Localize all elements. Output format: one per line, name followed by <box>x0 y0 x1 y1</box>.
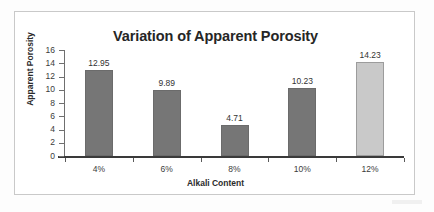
bar-value-label: 4.71 <box>208 113 262 123</box>
scan-artifact <box>392 200 422 204</box>
y-axis-tick-label: 16 <box>31 46 55 55</box>
y-axis-title: Apparent Porosity <box>25 29 35 109</box>
bar <box>85 70 113 156</box>
x-axis-line <box>58 156 404 158</box>
x-axis-tick <box>404 158 405 162</box>
chart-frame: Variation of Apparent Porosity Apparent … <box>14 11 415 195</box>
bar-value-label: 14.23 <box>343 50 397 60</box>
y-axis-tick <box>59 90 64 91</box>
x-axis-tick-label: 4% <box>69 164 129 174</box>
bar <box>288 88 316 156</box>
y-axis-tick-label: 4 <box>31 125 55 134</box>
x-axis-tick-label: 12% <box>340 164 400 174</box>
y-axis-tick <box>59 77 64 78</box>
bar-value-label: 12.95 <box>72 58 126 68</box>
x-axis-tick <box>201 158 202 162</box>
y-axis-tick <box>59 103 64 104</box>
scanned-page-background: Variation of Apparent Porosity Apparent … <box>0 0 434 212</box>
bar <box>356 62 384 156</box>
y-axis-tick <box>59 156 64 157</box>
y-axis-tick-label: 12 <box>31 72 55 81</box>
y-axis-tick-label: 8 <box>31 99 55 108</box>
bar <box>153 90 181 156</box>
chart-title: Variation of Apparent Porosity <box>15 28 416 44</box>
y-axis-tick-label: 10 <box>31 85 55 94</box>
y-axis-tick <box>59 116 64 117</box>
bar-value-label: 9.89 <box>140 78 194 88</box>
y-axis-tick <box>59 63 64 64</box>
x-axis-tick-label: 8% <box>205 164 265 174</box>
y-axis-tick <box>59 50 64 51</box>
y-axis-tick-label: 2 <box>31 138 55 147</box>
y-axis-tick-label: 14 <box>31 59 55 68</box>
y-axis-tick <box>59 130 64 131</box>
x-axis-tick-label: 6% <box>137 164 197 174</box>
y-axis-tick <box>59 143 64 144</box>
x-axis-tick <box>336 158 337 162</box>
x-axis-tick <box>65 158 66 162</box>
x-axis-tick-label: 10% <box>272 164 332 174</box>
x-axis-title: Alkali Content <box>15 178 416 188</box>
bar <box>221 125 249 156</box>
bar-value-label: 10.23 <box>275 76 329 86</box>
y-axis-tick-label: 6 <box>31 112 55 121</box>
x-axis-tick <box>133 158 134 162</box>
x-axis-tick <box>268 158 269 162</box>
y-axis-tick-label: 0 <box>31 152 55 161</box>
